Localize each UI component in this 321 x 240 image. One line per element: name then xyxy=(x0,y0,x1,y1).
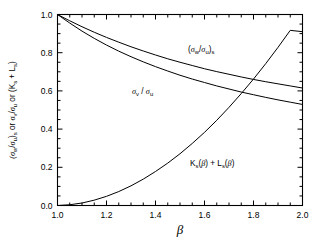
y-tick-label: 0.6 xyxy=(41,86,53,96)
chart-figure: 1.01.21.41.61.82.0 0.00.20.40.60.81.0 β … xyxy=(0,0,321,240)
lower-l-close: ) xyxy=(232,159,235,168)
curve-sigma-w-over-sigma-u xyxy=(58,15,303,89)
lower-curve-annotation: Ks(β) + Ls(β) xyxy=(190,159,235,169)
curve-ks-plus-ls xyxy=(58,30,303,205)
y-tick-label: 0.2 xyxy=(41,162,53,172)
upper-curve-annotation: (σw/σu)s xyxy=(188,45,214,55)
y-tick-label: 0.4 xyxy=(41,124,53,134)
x-tick-label: 1.2 xyxy=(101,210,113,220)
y-tick-label: 1.0 xyxy=(41,10,53,20)
y-axis-ticks xyxy=(58,15,303,206)
y-tick-label: 0.8 xyxy=(41,48,53,58)
middle-curve-annotation: σv / σu xyxy=(132,87,153,97)
x-tick-label: 1.6 xyxy=(199,210,211,220)
upper-sub-s: s xyxy=(211,49,214,55)
x-tick-label: 1.0 xyxy=(52,210,64,220)
curve-sigma-v-over-sigma-u xyxy=(58,15,303,105)
y-tick-label: 0.0 xyxy=(41,201,53,211)
x-axis-tick-labels: 1.01.21.41.61.82.0 xyxy=(52,210,309,220)
x-tick-label: 2.0 xyxy=(297,210,309,220)
plot-frame xyxy=(58,15,303,206)
y-axis-title: (σw/σu)s or σv/σu or (Ks + Ls) xyxy=(8,61,18,159)
x-axis-title: β xyxy=(176,222,184,237)
middle-sub-2: u xyxy=(150,91,153,97)
x-tick-label: 1.8 xyxy=(248,210,260,220)
ylabel-paren-close-2: ) xyxy=(8,61,17,64)
x-axis-ticks xyxy=(58,15,303,206)
svg-text:(σw/σu)s or σv/σu or (Ks + Ls): (σw/σu)s or σv/σu or (Ks + Ls) xyxy=(8,61,18,159)
x-tick-label: 1.4 xyxy=(150,210,162,220)
chart-canvas: 1.01.21.41.61.82.0 0.00.20.40.60.81.0 β … xyxy=(0,0,321,240)
y-axis-tick-labels: 0.00.20.40.60.81.0 xyxy=(41,10,53,211)
